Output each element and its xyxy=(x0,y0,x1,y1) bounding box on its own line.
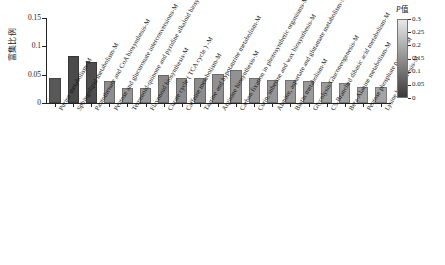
x-axis-tick-mark xyxy=(272,104,273,107)
colorbar-tick-label: 0.25 xyxy=(412,29,424,36)
x-axis-tick-mark xyxy=(146,104,147,107)
y-axis-tick-mark xyxy=(42,75,46,76)
x-axis-tick-mark xyxy=(73,104,74,107)
x-axis-tick-mark xyxy=(182,104,183,107)
colorbar-tick-label: 0.1 xyxy=(412,68,421,75)
bar xyxy=(230,70,241,103)
bar xyxy=(158,75,169,103)
colorbar-tick-mark xyxy=(408,72,411,73)
y-axis-tick-label: 0.15 xyxy=(3,14,41,22)
legend-title-suffix: 值 xyxy=(401,5,408,14)
y-axis-tick-labels: 00.050.10.15 xyxy=(0,0,41,120)
y-axis-tick-mark xyxy=(42,46,46,47)
bar xyxy=(212,74,223,103)
x-axis-tick-mark xyxy=(55,104,56,107)
bar xyxy=(267,80,278,103)
p-value-legend: P值 0.30.250.20.150.10.050 xyxy=(392,6,442,106)
x-axis-tick-mark xyxy=(236,104,237,107)
enrichment-bar-chart-figure: 富集比例 00.050.10.15 Purine metabolism-MSph… xyxy=(0,0,445,265)
colorbar-tick-mark xyxy=(408,45,411,46)
plot-area xyxy=(46,18,390,103)
x-axis-tick-mark xyxy=(363,104,364,107)
bar xyxy=(194,78,205,104)
bar xyxy=(303,81,314,103)
bar xyxy=(357,87,368,103)
colorbar-tick-label: 0.3 xyxy=(412,16,421,23)
x-axis-tick-mark xyxy=(327,104,328,107)
colorbar-tick-label: 0.05 xyxy=(412,81,424,88)
bar xyxy=(375,87,386,103)
y-axis-tick-mark xyxy=(42,18,46,19)
colorbar-tick-mark xyxy=(408,32,411,33)
bar xyxy=(49,78,60,103)
bar xyxy=(68,56,79,103)
x-axis-tick-mark xyxy=(254,104,255,107)
bar xyxy=(140,88,151,103)
colorbar-tick-mark xyxy=(408,98,411,99)
legend-title: P值 xyxy=(396,6,408,14)
bar xyxy=(321,82,332,103)
y-axis-tick-mark xyxy=(42,103,46,104)
bar xyxy=(86,62,97,103)
colorbar-tick-mark xyxy=(408,19,411,20)
bar xyxy=(285,80,296,103)
colorbar-gradient xyxy=(397,19,408,98)
y-axis-tick-label: 0.05 xyxy=(3,71,41,79)
bar xyxy=(104,81,115,103)
x-axis-tick-mark xyxy=(200,104,201,107)
x-axis-tick-mark xyxy=(345,104,346,107)
y-axis-tick-label: 0.1 xyxy=(3,42,41,50)
colorbar-tick-label: 0 xyxy=(412,95,416,102)
x-axis-tick-mark xyxy=(218,104,219,107)
colorbar-tick-label: 0.15 xyxy=(412,55,424,62)
bar xyxy=(249,78,260,104)
bar xyxy=(122,88,133,103)
x-axis-tick-mark xyxy=(381,104,382,107)
colorbar-tick-mark xyxy=(408,59,411,60)
x-axis-tick-mark xyxy=(309,104,310,107)
x-axis-tick-mark xyxy=(91,104,92,107)
colorbar-tick-mark xyxy=(408,85,411,86)
bar xyxy=(176,78,187,104)
x-axis-tick-mark xyxy=(164,104,165,107)
x-axis-tick-mark xyxy=(109,104,110,107)
x-axis-tick-mark xyxy=(290,104,291,107)
bar xyxy=(339,83,350,103)
colorbar-tick-label: 0.2 xyxy=(412,42,421,49)
x-axis-tick-mark xyxy=(127,104,128,107)
y-axis-tick-label: 0 xyxy=(3,99,41,107)
